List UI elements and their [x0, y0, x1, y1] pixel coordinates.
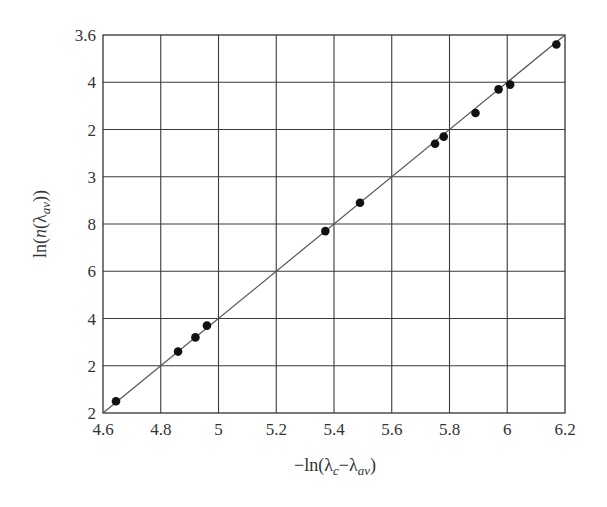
- x-tick-label: 6: [503, 420, 512, 439]
- y-tick-label: 6: [88, 262, 97, 281]
- x-tick-label: 5: [214, 420, 223, 439]
- data-point: [174, 347, 183, 356]
- data-point: [203, 321, 212, 330]
- y-tick-label: 8: [88, 215, 97, 234]
- x-tick-label: 5.4: [323, 420, 345, 439]
- x-tick-label: 6.2: [554, 420, 575, 439]
- data-point: [321, 227, 330, 236]
- y-axis-title: ln(n(λav)): [30, 190, 53, 258]
- chart: 4.64.855.25.45.65.866.2 3.642386422 −ln(…: [0, 0, 607, 507]
- data-point: [439, 132, 448, 141]
- x-tick-label: 5.8: [439, 420, 460, 439]
- x-tick-label: 4.8: [150, 420, 171, 439]
- data-point: [506, 80, 515, 89]
- x-axis-title: −ln(λc−λav): [294, 455, 376, 478]
- data-point: [191, 333, 200, 342]
- data-point: [431, 139, 440, 148]
- x-tick-label: 5.6: [381, 420, 402, 439]
- x-axis-ticks: 4.64.855.25.45.65.866.2: [92, 420, 575, 439]
- data-point: [112, 397, 121, 406]
- data-point: [494, 85, 503, 94]
- y-tick-label: 4: [88, 310, 97, 329]
- y-tick-label: 3: [88, 168, 97, 187]
- y-tick-label: 3.6: [75, 26, 96, 45]
- data-point: [471, 109, 480, 118]
- y-tick-label: 2: [88, 357, 97, 376]
- y-tick-label: 2: [88, 404, 97, 423]
- data-point: [552, 40, 561, 49]
- data-point: [356, 198, 365, 207]
- y-axis-ticks: 3.642386422: [75, 26, 97, 423]
- y-tick-label: 4: [88, 73, 97, 92]
- y-tick-label: 2: [88, 121, 97, 140]
- x-tick-label: 5.2: [266, 420, 287, 439]
